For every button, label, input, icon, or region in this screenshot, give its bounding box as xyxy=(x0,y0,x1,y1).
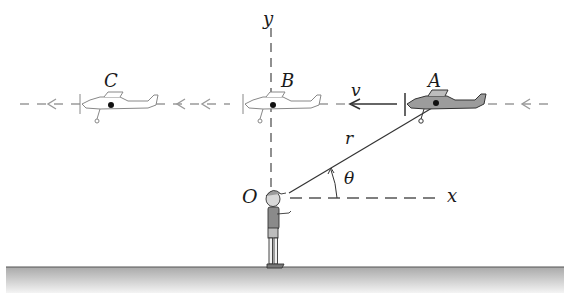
radius-label: r xyxy=(345,130,353,147)
plane-c-label: C xyxy=(104,72,118,90)
plane-b xyxy=(243,92,321,123)
ground xyxy=(6,267,564,293)
plane-a xyxy=(405,90,486,123)
velocity-arrow xyxy=(350,99,397,109)
y-axis-label: y xyxy=(263,10,273,28)
x-axis-label: x xyxy=(447,187,457,205)
plane-c xyxy=(80,92,158,123)
origin-label: O xyxy=(242,187,258,206)
radius-line xyxy=(289,108,432,193)
angle-arc xyxy=(328,168,337,198)
observer-child xyxy=(266,190,291,268)
angle-label: θ xyxy=(344,170,354,187)
velocity-label: v xyxy=(351,82,361,99)
diagram-canvas: y x O C B A v r θ xyxy=(0,0,564,293)
plane-b-label: B xyxy=(281,72,294,90)
plane-a-label: A xyxy=(428,72,441,90)
